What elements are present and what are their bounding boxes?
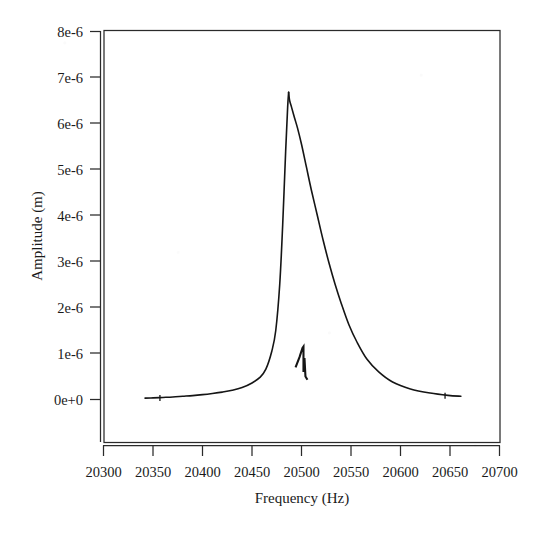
xtick-label-20500: 20500 [283, 464, 319, 480]
xtick-label-20300: 20300 [85, 464, 121, 480]
xtick-label-20700: 20700 [481, 464, 517, 480]
chart-svg: 8e-6 7e-6 6e-6 5e-6 4e-6 3e-6 2e-6 1e-6 … [0, 0, 540, 537]
xtick-label-20400: 20400 [184, 464, 220, 480]
ytick-label-6e-6: 6e-6 [57, 116, 83, 132]
ytick-label-4e-6: 4e-6 [57, 208, 83, 224]
ytick-label-8e-6: 8e-6 [57, 24, 83, 40]
xtick-label-20600: 20600 [382, 464, 418, 480]
ytick-label-7e-6: 7e-6 [57, 70, 83, 86]
ytick-label-2e-6: 2e-6 [57, 300, 83, 316]
ytick-label-0e-0: 0e+0 [54, 392, 83, 408]
ytick-label-5e-6: 5e-6 [57, 162, 83, 178]
xtick-label-20350: 20350 [135, 464, 171, 480]
x-axis-tick-labels: 20300 20350 20400 20450 20500 20550 2060… [85, 464, 517, 480]
ytick-label-1e-6: 1e-6 [57, 346, 83, 362]
ytick-label-3e-6: 3e-6 [57, 254, 83, 270]
xtick-label-20650: 20650 [432, 464, 468, 480]
xtick-label-20450: 20450 [234, 464, 270, 480]
y-axis-tick-labels: 8e-6 7e-6 6e-6 5e-6 4e-6 3e-6 2e-6 1e-6 … [54, 24, 83, 408]
x-axis-title: Frequency (Hz) [255, 490, 350, 507]
xtick-label-20550: 20550 [333, 464, 369, 480]
y-axis-title: Amplitude (m) [29, 191, 46, 281]
chart-figure: 8e-6 7e-6 6e-6 5e-6 4e-6 3e-6 2e-6 1e-6 … [0, 0, 540, 537]
